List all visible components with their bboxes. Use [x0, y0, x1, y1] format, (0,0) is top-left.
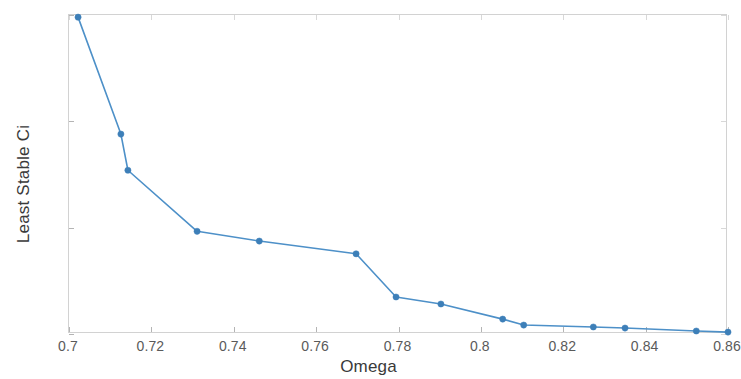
data-point-marker [622, 325, 628, 331]
data-point-marker [194, 228, 200, 234]
data-point-marker [118, 131, 124, 137]
x-tick-label: 0.76 [301, 338, 329, 354]
data-point-marker [125, 167, 131, 173]
plot-area [68, 14, 727, 333]
series-marker-group [75, 14, 731, 335]
x-tick-mark-top [728, 15, 729, 20]
y-tick-mark-right [721, 334, 726, 335]
x-tick-label: 0.84 [631, 338, 659, 354]
x-tick-label: 0.72 [137, 338, 165, 354]
data-point-marker [590, 324, 596, 330]
x-tick-label: 0.7 [58, 338, 78, 354]
data-point-marker [500, 316, 506, 322]
x-tick-label: 0.78 [384, 338, 412, 354]
data-point-marker [438, 301, 444, 307]
x-tick-label: 0.86 [713, 338, 741, 354]
data-point-marker [75, 14, 81, 20]
data-point-marker [725, 329, 731, 335]
x-tick-label: 0.74 [219, 338, 247, 354]
data-point-marker [256, 238, 262, 244]
x-tick-label: 0.82 [548, 338, 576, 354]
data-point-marker [693, 328, 699, 334]
x-axis-title: Omega [0, 357, 737, 377]
data-series-layer [69, 15, 728, 334]
y-axis-title: Least Stable Ci [14, 24, 34, 344]
data-point-marker [393, 294, 399, 300]
data-point-marker [353, 251, 359, 257]
x-tick-label: 0.8 [470, 338, 490, 354]
data-point-marker [521, 322, 527, 328]
y-tick-mark [69, 334, 74, 335]
series-line-least-stable-ci [78, 17, 728, 332]
